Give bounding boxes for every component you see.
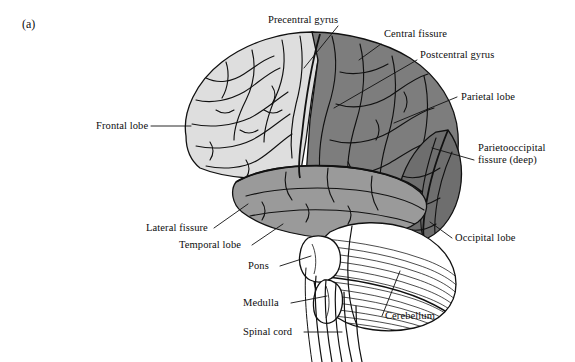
label-cerebellum: Cerebellum (385, 310, 435, 322)
label-frontal-lobe: Frontal lobe (96, 120, 148, 132)
label-parietooccipital-fissure-line2: fissure (deep) (478, 154, 537, 165)
label-parietooccipital-fissure-line1: Parietooccipital (478, 142, 546, 153)
label-temporal-lobe: Temporal lobe (179, 239, 241, 251)
label-pons: Pons (248, 260, 269, 272)
brain-anatomy-figure: (a) (0, 0, 575, 362)
label-parietal-lobe: Parietal lobe (461, 91, 515, 103)
region-medulla (313, 280, 342, 324)
label-lateral-fissure: Lateral fissure (146, 222, 208, 234)
label-central-fissure: Central fissure (384, 28, 447, 40)
label-parietooccipital-fissure: Parietooccipital fissure (deep) (478, 142, 546, 166)
label-occipital-lobe: Occipital lobe (455, 232, 516, 244)
label-spinal-cord: Spinal cord (243, 326, 292, 338)
label-medulla: Medulla (243, 297, 279, 309)
label-postcentral-gyrus: Postcentral gyrus (420, 49, 494, 61)
label-precentral-gyrus: Precentral gyrus (268, 14, 338, 26)
